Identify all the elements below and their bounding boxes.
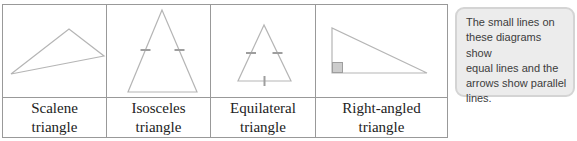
callout-note: The small lines on these diagrams show e…	[455, 7, 575, 97]
triangle-table: Scalene triangle Isosceles triangle Equi…	[2, 4, 448, 138]
callout-text-line: arrows show parallel	[466, 76, 567, 91]
cell-right-angled-diagram	[316, 5, 447, 97]
callout-text-line: equal lines and the	[466, 61, 567, 76]
label-line: triangle	[136, 118, 182, 137]
label-line: Right-angled	[342, 99, 420, 118]
cell-equilateral-diagram	[211, 5, 316, 97]
label-line: Equilateral	[230, 99, 296, 118]
label-line: triangle	[359, 118, 405, 137]
textbook-figure: Scalene triangle Isosceles triangle Equi…	[0, 0, 577, 141]
label-line: triangle	[240, 118, 286, 137]
label-equilateral-triangle: Equilateral triangle	[211, 97, 316, 137]
callout-text-line: these diagrams show	[466, 30, 567, 61]
scalene-triangle-icon	[3, 5, 106, 97]
label-isosceles-triangle: Isosceles triangle	[107, 97, 211, 137]
label-line: Isosceles	[131, 99, 185, 118]
equilateral-triangle-icon	[211, 5, 315, 97]
label-line: triangle	[32, 118, 78, 137]
cell-isosceles-diagram	[107, 5, 211, 97]
label-scalene-triangle: Scalene triangle	[3, 97, 107, 137]
label-right-angled-triangle: Right-angled triangle	[316, 97, 447, 137]
label-line: Scalene	[31, 99, 78, 118]
right-angled-triangle-icon	[317, 5, 447, 97]
callout-text-line: lines.	[466, 91, 567, 106]
callout-text-line: The small lines on	[466, 15, 567, 30]
cell-scalene-diagram	[3, 5, 107, 97]
isosceles-triangle-icon	[107, 5, 210, 97]
